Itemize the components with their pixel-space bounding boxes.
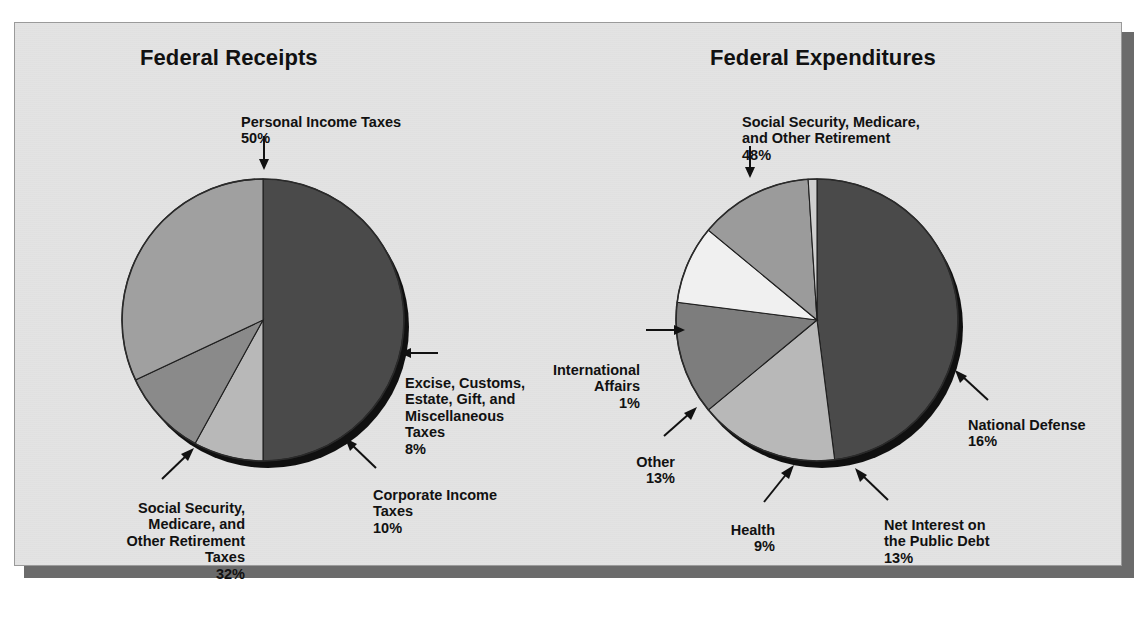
callout-social-security-taxes-pct: 32% [30,566,245,583]
callout-social-security-taxes-text: Social Security, Medicare, and Other Ret… [127,500,245,566]
callout-national-defense-pct: 16% [968,433,1128,450]
pie-left-svg [118,176,418,476]
callout-net-interest-pct: 13% [884,550,990,567]
arrow-net-interest [852,466,894,506]
callout-health-text: Health [731,522,775,538]
arrow-personal-income-taxes [256,136,276,172]
pie-slice [817,179,958,460]
arrow-national-defense [952,368,994,406]
chart-title-left: Federal Receipts [140,45,318,71]
callout-international-affairs-text: International Affairs [553,362,640,395]
callout-health-pct: 9% [670,538,775,555]
callout-other: Other 13% [580,437,675,503]
callout-social-security-expenditure-pct: 48% [742,147,920,164]
pie-right-svg [672,176,972,476]
callout-health: Health 9% [670,505,775,571]
arrow-social-security-expenditure [742,146,762,180]
arrow-corporate-income-taxes [342,436,382,474]
arrow-other [660,404,702,442]
figure-root: Federal Receipts Federal Expenditures Pe… [0,0,1146,619]
callout-corporate-income-taxes-pct: 10% [373,520,497,537]
arrow-health [760,462,800,506]
arrow-excise-taxes [398,345,440,361]
callout-national-defense: National Defense 16% [968,400,1128,466]
callout-excise-taxes-pct: 8% [405,441,525,458]
callout-other-text: Other [636,454,675,470]
callout-other-pct: 13% [580,470,675,487]
callout-net-interest: Net Interest on the Public Debt 13% [884,500,990,583]
callout-social-security-expenditure: Social Security, Medicare, and Other Ret… [742,97,920,180]
callout-international-affairs: International Affairs 1% [520,345,640,428]
pie-slice [263,179,404,461]
callout-social-security-taxes: Social Security, Medicare, and Other Ret… [30,483,245,599]
arrow-international-affairs [646,322,688,338]
callout-international-affairs-pct: 1% [520,395,640,412]
callout-corporate-income-taxes: Corporate Income Taxes 10% [373,470,497,553]
cut-off-header [0,0,1146,4]
callout-corporate-income-taxes-text: Corporate Income Taxes [373,487,497,520]
callout-excise-taxes-text: Excise, Customs, Estate, Gift, and Misce… [405,375,525,441]
chart-title-right: Federal Expenditures [710,45,936,71]
pie-chart-federal-expenditures [672,176,972,476]
callout-personal-income-taxes-text: Personal Income Taxes [241,114,401,130]
pie-chart-federal-receipts [118,176,418,476]
arrow-social-security-taxes [158,445,198,483]
callout-national-defense-text: National Defense [968,417,1086,433]
callout-net-interest-text: Net Interest on the Public Debt [884,517,990,550]
callout-social-security-expenditure-text: Social Security, Medicare, and Other Ret… [742,114,920,147]
callout-excise-taxes: Excise, Customs, Estate, Gift, and Misce… [405,358,525,474]
